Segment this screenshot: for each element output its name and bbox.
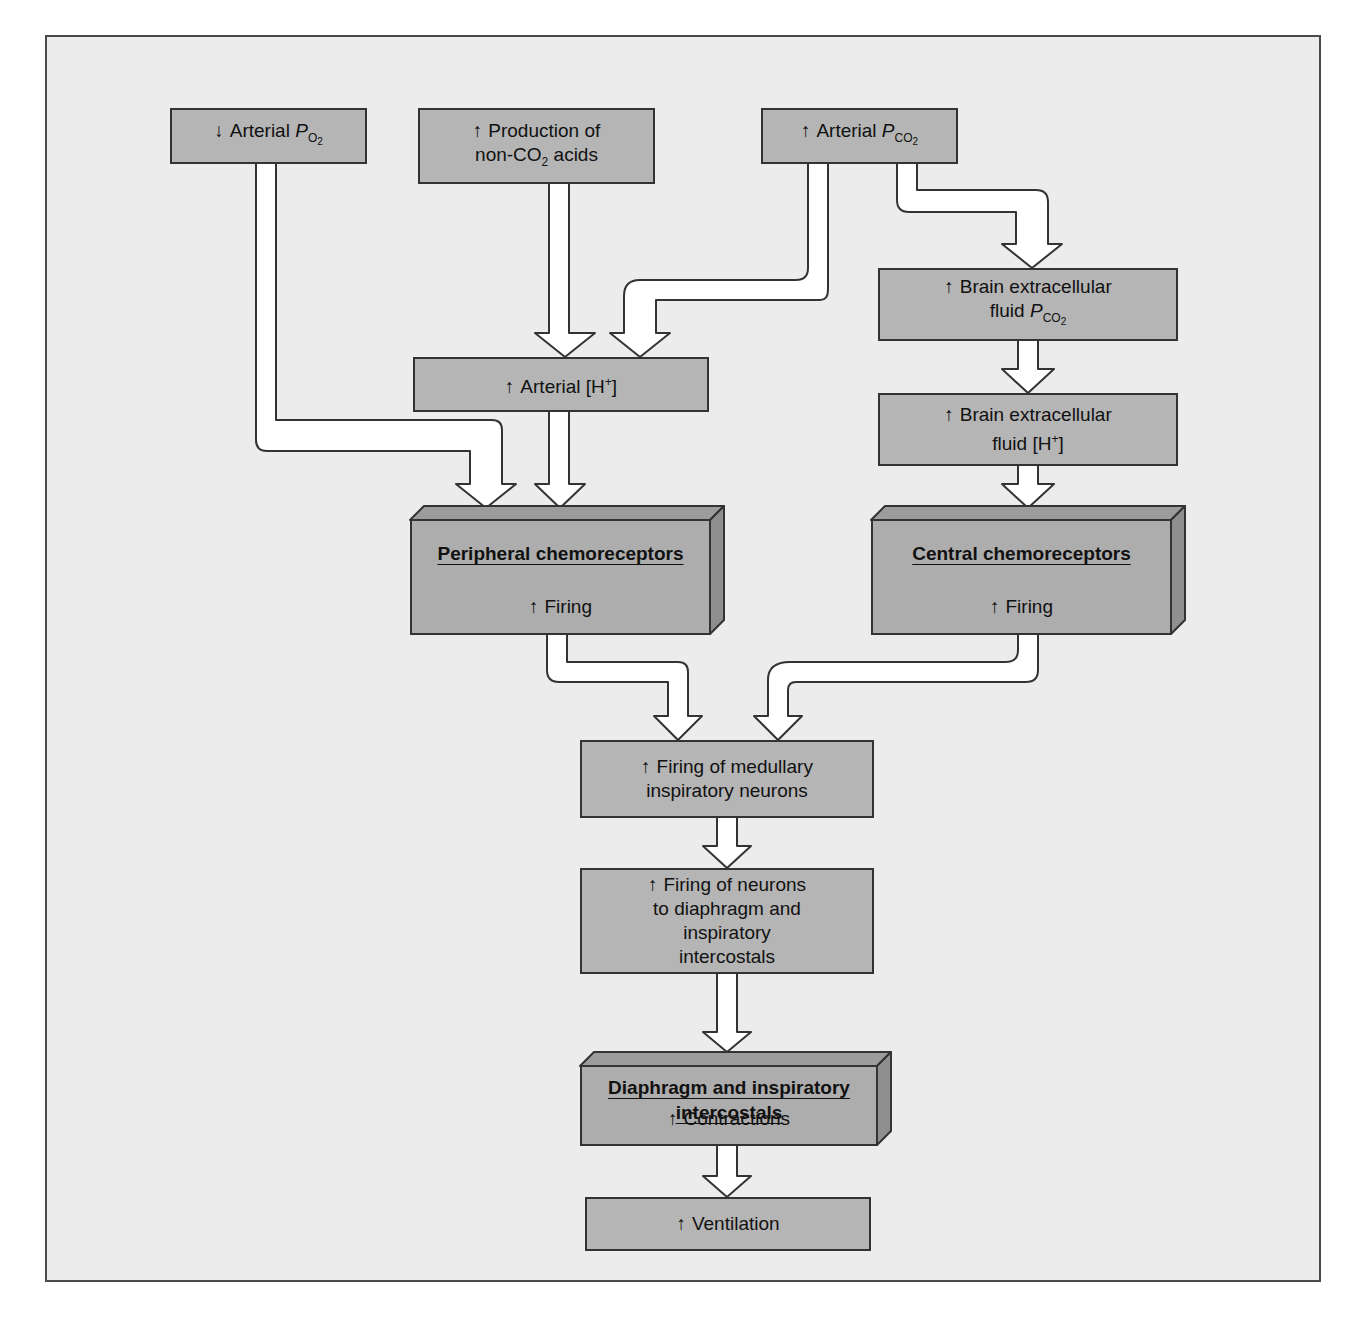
node-arterial-h: ↑Arterial [H+] [413, 357, 709, 412]
node-arterial-pco2: ↑Arterial PCO2 [761, 108, 958, 164]
arrow-diaphragm-to-ventilation [703, 1145, 751, 1197]
down-arrow-icon: ↓ [214, 120, 224, 141]
arrow-po2-to-peripheral [256, 163, 516, 508]
up-arrow-icon: ↑ [529, 596, 539, 617]
up-arrow-icon: ↑ [641, 756, 651, 777]
up-arrow-icon: ↑ [505, 376, 515, 397]
arrow-central-to-medullary [754, 634, 1038, 740]
up-arrow-icon: ↑ [676, 1213, 686, 1234]
central-box-side [1171, 506, 1185, 634]
peripheral-box-side [710, 506, 724, 634]
diaphragm-effect: ↑Contractions [580, 1108, 878, 1130]
node-diaphragm-intercostals: Diaphragm and inspiratory intercostals [580, 1065, 878, 1146]
peripheral-box-top [410, 506, 724, 520]
node-neurons-to-diaphragm: ↑Firing of neurons to diaphragm and insp… [580, 868, 874, 974]
node-peripheral-chemoreceptors: Peripheral chemoreceptors ↑Firing [410, 519, 711, 635]
arrow-neurons-to-diaphragm [703, 973, 751, 1052]
node-central-chemoreceptors: Central chemoreceptors ↑Firing [871, 519, 1172, 635]
arrow-pco2-to-arterial-h [610, 163, 828, 357]
node-non-co2-acids: ↑Production of non-CO2 acids [418, 108, 655, 184]
up-arrow-icon: ↑ [668, 1108, 678, 1129]
arrow-medullary-to-neurons [703, 817, 751, 868]
up-arrow-icon: ↑ [944, 404, 954, 425]
up-arrow-icon: ↑ [473, 120, 483, 141]
arrow-acids-to-arterial-h [535, 183, 595, 357]
node-arterial-po2: ↓Arterial PO2 [170, 108, 367, 164]
up-arrow-icon: ↑ [801, 120, 811, 141]
arrow-pco2-to-brain-pco2 [897, 163, 1062, 268]
node-medullary-neurons: ↑Firing of medullary inspiratory neurons [580, 740, 874, 818]
arrow-brain-h-to-central [1002, 465, 1054, 508]
central-box-top [871, 506, 1185, 520]
node-brain-h: ↑Brain extracellular fluid [H+] [878, 393, 1178, 466]
diaphragm-box-top [580, 1052, 891, 1066]
arrow-arterial-h-to-peripheral [535, 411, 585, 508]
node-ventilation: ↑Ventilation [585, 1197, 871, 1251]
up-arrow-icon: ↑ [990, 596, 1000, 617]
arrow-peripheral-to-medullary [547, 634, 702, 740]
arrow-brain-pco2-to-brain-h [1002, 340, 1054, 393]
diaphragm-box-side [877, 1052, 891, 1145]
node-brain-pco2: ↑Brain extracellular fluid PCO2 [878, 268, 1178, 341]
up-arrow-icon: ↑ [944, 276, 954, 297]
up-arrow-icon: ↑ [648, 874, 658, 895]
